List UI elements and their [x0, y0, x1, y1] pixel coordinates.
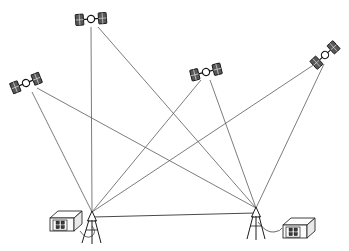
- receiver-button: [56, 221, 59, 224]
- receiver-button: [294, 228, 297, 231]
- solar-panel-right-icon: [98, 12, 107, 24]
- satellite-body-icon: [87, 15, 95, 23]
- receiver-button: [289, 233, 292, 236]
- gps-diagram-canvas: [0, 0, 349, 251]
- diagram-background: [0, 0, 349, 251]
- receiver-button: [56, 226, 59, 229]
- gps-receiver-box-icon-left[interactable]: [50, 211, 82, 231]
- solar-panel-left-icon: [75, 14, 84, 26]
- receiver-button: [294, 233, 297, 236]
- gps-receiver-box-icon-right[interactable]: [283, 218, 315, 238]
- gps-diagram-svg: [0, 0, 349, 251]
- receiver-button: [61, 221, 64, 224]
- receiver-button: [61, 226, 64, 229]
- receiver-button: [289, 228, 292, 231]
